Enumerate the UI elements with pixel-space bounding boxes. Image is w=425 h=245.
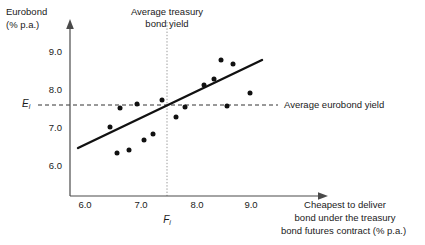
- scatter-point: [142, 138, 147, 143]
- chart-figure: Eurobond (% p.a.) 9.0 8.0 7.0 6.0 Ei 6.0…: [0, 0, 425, 245]
- y-axis-arrowhead: [66, 19, 74, 29]
- x-axis-title-line-2: bond under the treasury: [265, 212, 425, 225]
- y-tick-label-7: 7.0: [24, 122, 62, 134]
- scatter-point: [248, 91, 253, 96]
- x-tick-label-8: 8.0: [177, 199, 217, 211]
- scatter-point: [225, 104, 230, 109]
- scatter-point: [183, 105, 188, 110]
- y-tick-label-8: 8.0: [24, 84, 62, 96]
- scatter-point: [219, 58, 224, 63]
- scatter-point: [202, 83, 207, 88]
- y-axis-marker-subscript: i: [29, 103, 31, 110]
- scatter-point: [160, 98, 165, 103]
- x-tick-label-6: 6.0: [65, 199, 105, 211]
- x-axis-title-line-3: bond futures contract (% p.a.): [262, 225, 425, 238]
- scatter-point: [127, 148, 132, 153]
- x-axis-marker-subscript: i: [169, 219, 171, 226]
- y-tick-label-6: 6.0: [24, 160, 62, 172]
- scatter-point: [118, 106, 123, 111]
- scatter-point: [231, 62, 236, 67]
- x-axis-title-line-1: Cheapest to deliver: [265, 199, 425, 212]
- y-axis-title-line-1: Eurobond: [6, 6, 47, 19]
- scatter-point: [135, 102, 140, 107]
- regression-trend-line: [78, 60, 262, 148]
- annotation-average-treasury-bond-yield-line-2: bond yield: [107, 18, 227, 31]
- y-axis-title-line-2: (% p.a.): [6, 19, 39, 32]
- x-axis-marker-average-treasury-bond-yield: Fi: [147, 214, 187, 227]
- scatter-point-group: [108, 58, 253, 156]
- annotation-average-eurobond-yield: Average eurobond yield: [284, 99, 384, 111]
- y-tick-label-9: 9.0: [24, 46, 62, 58]
- scatter-point: [108, 125, 113, 130]
- scatter-point: [174, 115, 179, 120]
- scatter-point: [212, 77, 217, 82]
- y-axis-marker-symbol: E: [22, 98, 29, 109]
- x-tick-label-7: 7.0: [121, 199, 161, 211]
- scatter-point: [151, 132, 156, 137]
- y-axis-marker-average-eurobond-yield: Ei: [22, 98, 30, 111]
- annotation-average-treasury-bond-yield-line-1: Average treasury: [107, 6, 227, 19]
- scatter-point: [115, 151, 120, 156]
